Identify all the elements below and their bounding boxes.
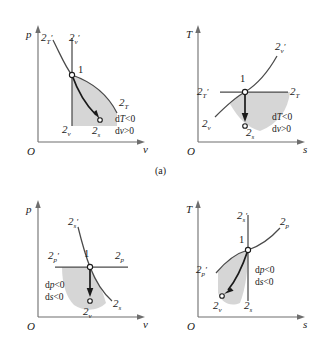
endpoint-2s-marker [98, 118, 103, 123]
label-2s-prime: 2s′ [237, 209, 248, 224]
condition-line-2: dv>0 [115, 126, 134, 136]
x-axis-label: v [143, 143, 148, 155]
y-axis-label: p [25, 203, 32, 215]
panel-pv-dT-negative: p v O 1 2T′ 2v′ 2T 2v 2 [0, 0, 161, 175]
state-point-1-label: 1 [240, 73, 245, 84]
label-2v-prime: 2v′ [69, 31, 81, 46]
y-axis-label: T [186, 203, 193, 215]
condition-line-2: ds<0 [255, 277, 274, 287]
origin-label: O [27, 320, 35, 332]
y-axis-arrowhead [35, 25, 40, 33]
x-axis-label: v [143, 318, 148, 330]
origin-label: O [187, 320, 195, 332]
condition-line-1: dT<0 [115, 114, 135, 124]
label-2T: 2T [290, 85, 301, 100]
y-axis-arrowhead [35, 200, 40, 208]
state-point-1-label: 1 [78, 64, 83, 75]
state-point-1-marker [242, 89, 247, 94]
label-2p: 2p [280, 215, 290, 230]
state-point-1-marker [87, 264, 92, 269]
y-axis-label: T [186, 28, 193, 40]
label-2T: 2T [119, 96, 130, 111]
state-point-1-marker [245, 247, 250, 252]
thermodynamic-diagram-figure: p v O 1 2T′ 2v′ 2T 2v 2 [0, 0, 321, 349]
y-axis-arrowhead [195, 25, 200, 33]
label-2p: 2p [115, 249, 125, 264]
label-2s: 2s [92, 124, 101, 139]
label-2T-prime: 2T′ [41, 31, 53, 46]
label-2s: 2s [244, 299, 253, 314]
x-axis-label: s [303, 143, 307, 155]
condition-line-2: ds<0 [45, 292, 64, 302]
condition-line-2: dv>0 [272, 124, 291, 134]
condition-line-1: dT<0 [272, 112, 292, 122]
panel-ts-dT-negative: T s O 1 2v′ 2T′ 2T 2v 2 [160, 0, 321, 175]
label-2v: 2v [62, 123, 72, 138]
state-point-1-marker [69, 72, 74, 77]
label-2p-prime: 2p′ [48, 249, 60, 264]
label-2s: 2s [113, 297, 122, 312]
condition-line-1: dp<0 [45, 280, 65, 290]
condition-line-1: dp<0 [255, 265, 275, 275]
label-2v: 2v [202, 117, 212, 132]
state-point-1-label: 1 [84, 248, 89, 259]
shaded-region [62, 267, 106, 310]
label-2T-prime: 2T′ [197, 85, 209, 100]
label-2v: 2v [213, 299, 223, 314]
endpoint-2v-marker [220, 294, 225, 299]
origin-label: O [27, 145, 35, 157]
endpoint-2v-marker [88, 299, 93, 304]
y-axis-arrowhead [195, 200, 200, 208]
y-axis-label: p [25, 28, 32, 40]
x-axis-label: s [303, 318, 307, 330]
panel-pv-dp-negative: p v O 1 2s′ 2p′ 2p 2s 2 [0, 175, 161, 349]
state-point-1-label: 1 [239, 234, 244, 245]
label-2v-prime: 2v′ [275, 40, 287, 55]
panel-ts-dp-negative: T s O 1 2s′ 2p 2p′ 2v 2 [160, 175, 321, 349]
shaded-region [72, 75, 117, 126]
origin-label: O [187, 145, 195, 157]
